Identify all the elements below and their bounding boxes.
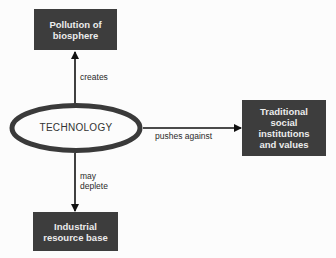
edge-label-may-deplete: may deplete [80,171,108,191]
node-text-line: Traditional [260,106,308,117]
edge-label-line: may [80,171,108,181]
node-industrial-resource-base: Industrial resource base [33,212,118,251]
edge-label-line: deplete [80,181,108,191]
node-text-line: Industrial [54,221,97,232]
edge-label-line: pushes against [155,131,212,141]
node-text-line: and values [259,139,308,150]
technology-node-label: TECHNOLOGY [9,122,143,134]
edge-label-line: creates [80,72,108,82]
edge-label-creates: creates [80,72,108,82]
node-text-line: social [271,117,298,128]
edge-label-pushes-against: pushes against [155,131,212,141]
node-text-line: biosphere [53,30,98,41]
node-text-line: Pollution of [49,19,101,30]
node-text-line: institutions [258,128,309,139]
node-text-line: resource base [43,232,107,243]
node-pollution-of-biosphere: Pollution of biosphere [34,9,117,50]
node-traditional-social-institutions: Traditional social institutions and valu… [242,100,326,156]
